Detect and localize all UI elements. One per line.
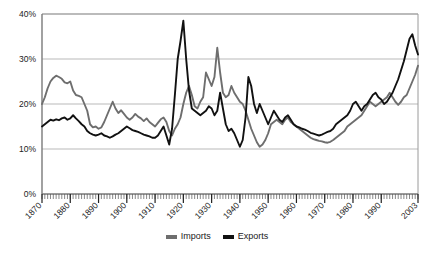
chart-legend: Imports Exports <box>0 232 434 241</box>
x-tick-label-1930: 1930 <box>193 200 214 221</box>
legend-item-imports: Imports <box>166 232 211 241</box>
x-tick-label-1960: 1960 <box>277 200 298 221</box>
x-tick-label-1950: 1950 <box>249 200 270 221</box>
y-tick-label-40: 40% <box>19 9 36 19</box>
y-axis-tick-labels: 0%10%20%30%40% <box>19 9 36 199</box>
x-tick-label-1870: 1870 <box>23 200 44 221</box>
chart-container: 0%10%20%30%40% 1870188018901900191019201… <box>0 0 434 257</box>
line-chart-svg: 0%10%20%30%40% 1870188018901900191019201… <box>0 0 434 257</box>
x-tick-label-1970: 1970 <box>306 200 327 221</box>
y-tick-label-30: 30% <box>19 54 36 64</box>
x-axis-tick-labels: 1870188018901900191019201930194019501960… <box>23 200 420 221</box>
x-tick-label-2003: 2003 <box>399 200 420 221</box>
legend-label-imports: Imports <box>181 232 211 241</box>
legend-item-exports: Exports <box>223 232 269 241</box>
x-tick-label-1910: 1910 <box>136 200 157 221</box>
x-tick-label-1880: 1880 <box>51 200 72 221</box>
legend-swatch-exports <box>223 235 234 239</box>
x-tick-label-1900: 1900 <box>108 200 129 221</box>
x-tick-label-1940: 1940 <box>221 200 242 221</box>
y-tick-label-10: 10% <box>19 144 36 154</box>
legend-label-exports: Exports <box>238 232 269 241</box>
y-tick-label-0: 0% <box>24 189 37 199</box>
legend-swatch-imports <box>166 235 177 239</box>
x-tick-label-1980: 1980 <box>334 200 355 221</box>
y-tick-label-20: 20% <box>19 99 36 109</box>
x-tick-label-1920: 1920 <box>164 200 185 221</box>
x-tick-label-1890: 1890 <box>80 200 101 221</box>
x-tick-label-1990: 1990 <box>362 200 383 221</box>
